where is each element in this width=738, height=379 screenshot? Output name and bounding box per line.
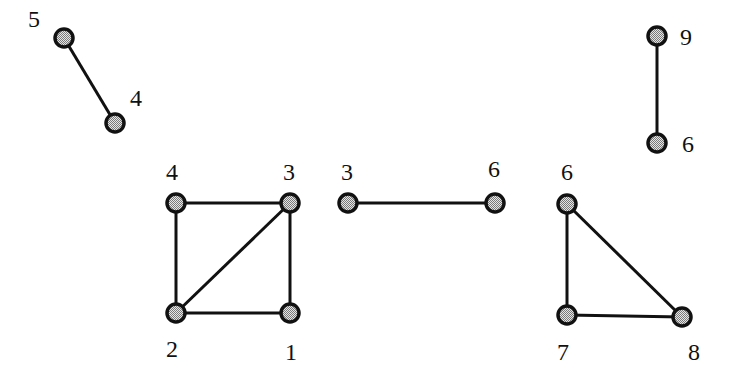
edge-component-d-7-8 — [567, 315, 682, 317]
node-label: 7 — [557, 339, 569, 365]
node-circle-icon — [55, 29, 73, 47]
node-label: 2 — [166, 336, 178, 362]
node-label: 8 — [688, 339, 700, 365]
node-circle-icon — [648, 134, 666, 152]
node-circle-icon — [648, 27, 666, 45]
edges-layer — [64, 36, 682, 317]
node-label: 1 — [285, 339, 297, 365]
node-circle-icon — [339, 194, 357, 212]
node-circle-icon — [558, 306, 576, 324]
node-label: 9 — [680, 24, 692, 50]
node-circle-icon — [167, 194, 185, 212]
node-label: 3 — [341, 159, 353, 185]
labels-layer: 5443213667896 — [28, 6, 700, 365]
node-label: 5 — [28, 6, 40, 32]
node-circle-icon — [281, 194, 299, 212]
node-circle-icon — [106, 114, 124, 132]
node-label: 4 — [166, 159, 178, 185]
edge-component-d-6-8 — [567, 204, 682, 317]
node-circle-icon — [673, 308, 691, 326]
node-label: 4 — [130, 85, 142, 111]
node-circle-icon — [281, 304, 299, 322]
node-label: 3 — [283, 159, 295, 185]
node-circle-icon — [486, 194, 504, 212]
edge-component-a-5-4 — [64, 38, 115, 123]
node-label: 6 — [561, 159, 573, 185]
node-label: 6 — [488, 156, 500, 182]
node-label: 6 — [682, 131, 694, 157]
edge-component-b-3-2 — [176, 203, 290, 313]
nodes-layer — [55, 27, 691, 326]
graph-diagram: 5443213667896 — [0, 0, 738, 379]
node-circle-icon — [167, 304, 185, 322]
node-circle-icon — [558, 195, 576, 213]
